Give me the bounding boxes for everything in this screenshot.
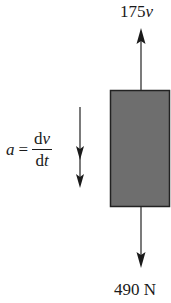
fraction-denominator: dt <box>34 152 51 169</box>
free-body-diagram: 175v 490 N a = dv dt <box>0 0 171 303</box>
acceleration-symbol: a <box>6 140 15 160</box>
up-force-arrow <box>137 28 146 90</box>
drag-force-variable: v <box>146 2 154 21</box>
equals-sign: = <box>19 140 29 160</box>
numerator-var: v <box>43 129 51 148</box>
body-block <box>111 91 170 207</box>
drag-force-label: 175v <box>120 3 153 20</box>
denominator-d: d <box>36 151 45 170</box>
denominator-var: t <box>44 151 49 170</box>
derivative-fraction: dv dt <box>32 130 52 169</box>
fraction-numerator: dv <box>32 130 52 147</box>
drag-force-coefficient: 175 <box>120 2 146 21</box>
fraction-bar <box>32 149 52 150</box>
acceleration-equation: a = dv dt <box>6 130 52 169</box>
numerator-d: d <box>34 129 43 148</box>
down-force-arrow <box>137 207 146 268</box>
acceleration-arrow <box>76 107 84 188</box>
weight-force-label: 490 N <box>114 281 156 298</box>
